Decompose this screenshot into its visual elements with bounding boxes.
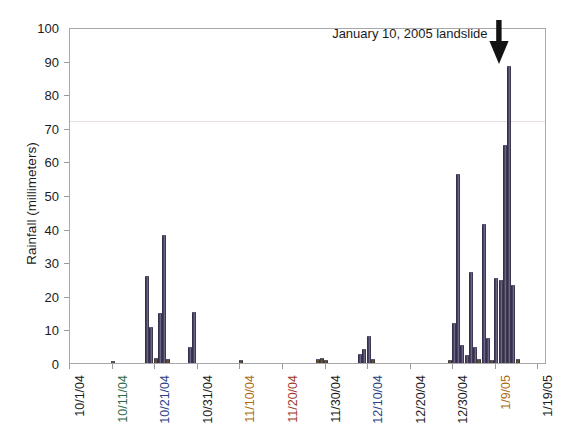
x-tick-mark — [197, 364, 198, 369]
x-tick-label: 12/20/04 — [415, 375, 428, 424]
landslide-annotation-label: January 10, 2005 landslide — [332, 26, 487, 41]
x-tick-label: 10/11/04 — [117, 375, 130, 423]
x-tick-mark — [239, 364, 240, 369]
plot-area — [69, 28, 546, 364]
y-tick-label: 0 — [52, 358, 59, 371]
bar — [456, 174, 460, 363]
x-tick-mark — [452, 364, 453, 369]
y-tick-label: 90 — [45, 55, 59, 68]
bar — [324, 360, 328, 363]
x-tick-label: 10/31/04 — [202, 375, 215, 424]
bar — [516, 359, 520, 363]
rainfall-chart-figure: Rainfall (millimeters) 01020304050607080… — [0, 0, 577, 437]
y-axis-tick-labels: 0102030405060708090100 — [0, 0, 69, 400]
y-tick-label: 50 — [45, 190, 59, 203]
y-tick-label: 100 — [37, 22, 59, 35]
x-tick-mark — [282, 364, 283, 369]
x-tick-label: 1/19/05 — [542, 375, 555, 417]
x-tick-label: 1/9/05 — [500, 375, 513, 410]
x-tick-label: 12/10/04 — [372, 375, 385, 424]
bar — [371, 359, 375, 363]
y-tick-label: 40 — [45, 223, 59, 236]
x-tick-label: 10/21/04 — [159, 375, 172, 424]
y-tick-label: 10 — [45, 324, 59, 337]
bar — [162, 235, 166, 363]
bar — [511, 285, 515, 363]
x-tick-mark — [154, 364, 155, 369]
x-tick-mark — [367, 364, 368, 369]
x-tick-label: 11/20/04 — [287, 375, 300, 423]
bar — [166, 359, 170, 363]
x-tick-label: 10/1/04 — [74, 375, 87, 417]
scan-artifact-line — [70, 121, 545, 122]
x-tick-mark — [112, 364, 113, 369]
y-tick-label: 60 — [45, 156, 59, 169]
y-tick-label: 30 — [45, 257, 59, 270]
y-tick-label: 20 — [45, 290, 59, 303]
bar — [239, 360, 243, 363]
x-tick-mark — [495, 364, 496, 369]
x-tick-mark — [325, 364, 326, 369]
y-tick-label: 70 — [45, 122, 59, 135]
y-tick-label: 80 — [45, 89, 59, 102]
x-tick-mark — [537, 364, 538, 369]
bar — [486, 338, 490, 363]
x-tick-mark — [410, 364, 411, 369]
x-tick-label: 11/10/04 — [244, 375, 257, 423]
x-tick-mark — [69, 364, 70, 369]
x-tick-label: 11/30/04 — [330, 375, 343, 423]
x-tick-label: 12/30/04 — [457, 375, 470, 424]
bar — [192, 312, 196, 363]
down-arrow-icon — [488, 20, 510, 65]
bar — [111, 361, 115, 364]
